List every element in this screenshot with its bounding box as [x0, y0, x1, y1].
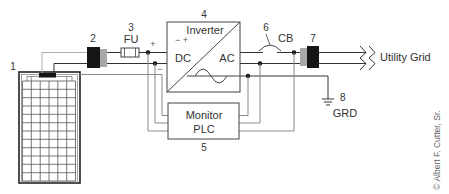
- wire-ground: [240, 76, 328, 99]
- junction-box: [39, 73, 56, 78]
- label-pv-panel-number: 1: [10, 61, 16, 72]
- copyright-credit: © Albert F. Cutter, Sr.: [432, 110, 442, 190]
- label-dc-positive: +: [150, 39, 155, 49]
- label-inverter-dc: DC: [175, 52, 191, 64]
- label-dc-negative: −: [157, 64, 162, 74]
- ground-icon: [322, 99, 334, 105]
- label-inverter-polarity: − +: [175, 35, 188, 45]
- label-inverter-title: Inverter: [186, 24, 224, 36]
- label-monitor-line2: PLC: [193, 123, 214, 135]
- pv-system-diagram: 1 2 3 FU + −: [0, 0, 449, 194]
- label-monitor-number: 5: [201, 142, 207, 153]
- pv-panel: [19, 72, 80, 183]
- label-dc-disconnect-number: 2: [90, 33, 96, 44]
- label-fuse: FU: [124, 33, 139, 45]
- label-inverter-ac: AC: [219, 52, 234, 64]
- label-inverter-number: 4: [201, 9, 207, 20]
- label-ground-number: 8: [340, 92, 346, 103]
- fuse-symbol: [121, 48, 139, 57]
- dc-disconnect-connector: [87, 47, 107, 68]
- ac-disconnect-connector: [300, 46, 319, 68]
- label-monitor-line1: Monitor: [186, 109, 223, 121]
- wire-sense-ac-line2: [239, 64, 260, 124]
- label-ground: GRD: [333, 107, 358, 119]
- label-breaker: CB: [278, 32, 293, 44]
- label-breaker-number: 6: [263, 22, 269, 33]
- wire-sense-ac-line1: [239, 53, 294, 132]
- label-ac-disconnect-number: 7: [310, 33, 316, 44]
- wire-panel-positive: [42, 53, 87, 74]
- grid-connection-zigzag-icon: [360, 46, 375, 70]
- label-fuse-number: 3: [128, 22, 134, 33]
- label-utility-grid: Utility Grid: [380, 51, 431, 63]
